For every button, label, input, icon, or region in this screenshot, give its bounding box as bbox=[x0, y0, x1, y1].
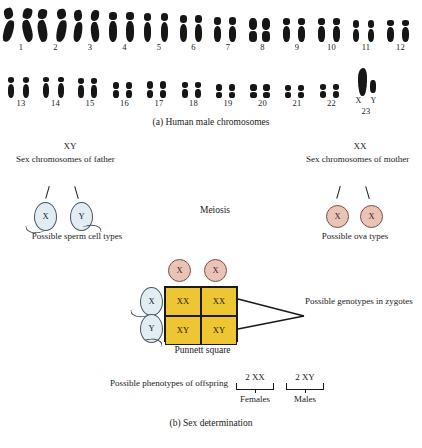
caption-b: (b) Sex determination bbox=[0, 418, 422, 428]
karyotype-row-1: 123456789101112 bbox=[0, 4, 422, 62]
chromosome-number-4: 4 bbox=[108, 42, 142, 52]
chromosome-number-2: 2 bbox=[39, 42, 73, 52]
chromosome-pair bbox=[108, 60, 142, 98]
chromosome-number-14: 14 bbox=[39, 98, 73, 108]
chromosome-pair bbox=[142, 60, 176, 98]
punnett-square-label: Punnett square bbox=[150, 345, 255, 355]
father-genotype: XY bbox=[10, 141, 130, 151]
chromosome-pair bbox=[349, 4, 383, 42]
phenotype-genotype-males: 2 XY bbox=[282, 372, 328, 382]
chromosome-number-12: 12 bbox=[384, 42, 418, 52]
phenotype-genotype-females: 2 XX bbox=[232, 372, 278, 382]
chromosome-7: 7 bbox=[211, 4, 245, 52]
chromosome-10: 10 bbox=[315, 4, 349, 52]
chromosome-pair bbox=[73, 4, 107, 42]
phenotype-name-males: Males bbox=[282, 394, 328, 404]
punnett-column-gamete-2: X bbox=[204, 259, 227, 282]
mother-genotype: XX bbox=[300, 141, 420, 151]
chromosome-pair bbox=[108, 4, 142, 42]
chromosome-pair bbox=[315, 4, 349, 42]
genotype-pointer-lines bbox=[230, 286, 310, 342]
phenotype-label: Possible phenotypes of offspring bbox=[110, 378, 230, 389]
mother-split-right bbox=[365, 186, 370, 199]
chromosome-number-16: 16 bbox=[108, 98, 142, 108]
chromosome-number-7: 7 bbox=[211, 42, 245, 52]
punnett-column-gamete-1: X bbox=[168, 259, 191, 282]
chromosome-number-1: 1 bbox=[4, 42, 38, 52]
chromosome-3: 3 bbox=[73, 4, 107, 52]
chromosome-number-21: 21 bbox=[280, 98, 314, 108]
sex-chromosome-labels: XY bbox=[349, 96, 383, 105]
chromosome-16: 16 bbox=[108, 60, 142, 108]
chromosome-number-9: 9 bbox=[280, 42, 314, 52]
chromosome-pair bbox=[39, 4, 73, 42]
chromosome-pair bbox=[280, 60, 314, 98]
phenotype-brace-males bbox=[286, 383, 324, 390]
chromosome-pair bbox=[384, 4, 418, 42]
chromosome-22: 22 bbox=[315, 60, 349, 108]
chromosome-pair bbox=[177, 4, 211, 42]
chromosome-21: 21 bbox=[280, 60, 314, 108]
chromosome-20: 20 bbox=[246, 60, 280, 108]
chromosome-number-19: 19 bbox=[211, 98, 245, 108]
chromosome-number-11: 11 bbox=[349, 42, 383, 52]
chromosome-1: 1 bbox=[4, 4, 38, 52]
chromosome-number-8: 8 bbox=[246, 42, 280, 52]
phenotype-group-females: 2 XX Females bbox=[232, 372, 278, 404]
chromosome-9: 9 bbox=[280, 4, 314, 52]
phenotype-name-females: Females bbox=[232, 394, 278, 404]
ovum-cell-x-2: X bbox=[360, 205, 383, 228]
chromosome-number-22: 22 bbox=[315, 98, 349, 108]
ova-types-label: Possible ova types bbox=[290, 231, 420, 241]
chromosome-pair bbox=[39, 60, 73, 98]
chromosome-y-art bbox=[370, 80, 376, 93]
phenotype-group-males: 2 XY Males bbox=[282, 372, 328, 404]
chromosome-number-23: 23 bbox=[349, 106, 383, 116]
chromosome-number-10: 10 bbox=[315, 42, 349, 52]
sex-chromosome-x-label: X bbox=[351, 96, 366, 105]
chromosome-pair bbox=[177, 60, 211, 98]
chromosome-14: 14 bbox=[39, 60, 73, 108]
chromosome-23: XY23 bbox=[349, 60, 383, 116]
genotype-annotation: Possible genotypes in zygotes bbox=[305, 296, 420, 307]
father-split-left bbox=[45, 186, 50, 199]
father-description: Sex chromosomes of father bbox=[16, 154, 146, 165]
sex-chromosome-y-label: Y bbox=[366, 96, 381, 105]
chromosome-2: 2 bbox=[39, 4, 73, 52]
punnett-cell-3: XY bbox=[165, 316, 201, 345]
chromosome-number-5: 5 bbox=[142, 42, 176, 52]
father-split-right bbox=[74, 186, 79, 199]
chromosome-12: 12 bbox=[384, 4, 418, 52]
chromosome-4: 4 bbox=[108, 4, 142, 52]
chromosome-17: 17 bbox=[142, 60, 176, 108]
phenotype-brace-females bbox=[236, 383, 274, 390]
punnett-square: XX XX XY XY bbox=[164, 286, 238, 342]
chromosome-5: 5 bbox=[142, 4, 176, 52]
chromosome-number-18: 18 bbox=[177, 98, 211, 108]
chromosome-pair bbox=[211, 4, 245, 42]
chromosome-pair bbox=[73, 60, 107, 98]
chromosome-x-art bbox=[358, 68, 367, 96]
punnett-cell-1: XX bbox=[165, 287, 201, 316]
meiosis-label: Meiosis bbox=[160, 205, 270, 215]
chromosome-pair bbox=[246, 60, 280, 98]
chromosome-number-17: 17 bbox=[142, 98, 176, 108]
chromosome-pair bbox=[315, 60, 349, 98]
chromosome-pair bbox=[142, 4, 176, 42]
chromosome-pair bbox=[211, 60, 245, 98]
chromosome-pair bbox=[349, 60, 383, 98]
chromosome-pair bbox=[4, 60, 38, 98]
mother-split-left bbox=[336, 186, 341, 199]
chromosome-number-15: 15 bbox=[73, 98, 107, 108]
chromosome-11: 11 bbox=[349, 4, 383, 52]
chromosome-13: 13 bbox=[4, 60, 38, 108]
chromosome-15: 15 bbox=[73, 60, 107, 108]
karyotype-panel: 123456789101112 13141516171819202122XY23 bbox=[0, 0, 422, 120]
chromosome-number-6: 6 bbox=[177, 42, 211, 52]
chromosome-18: 18 bbox=[177, 60, 211, 108]
caption-a: (a) Human male chromosomes bbox=[0, 117, 422, 127]
chromosome-pair bbox=[280, 4, 314, 42]
chromosome-6: 6 bbox=[177, 4, 211, 52]
chromosome-pair bbox=[4, 4, 38, 42]
ovum-cell-x-1: X bbox=[326, 205, 349, 228]
